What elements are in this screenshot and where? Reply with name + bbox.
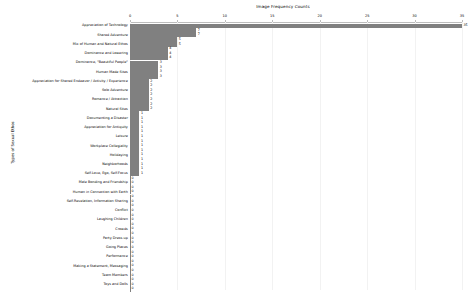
y-tick-label: Leisure: [116, 134, 128, 138]
x-tick-label: 5: [176, 14, 178, 18]
y-tick-label: Natural Sites: [106, 107, 128, 111]
y-tick-label: Documenting a Disaster: [87, 116, 128, 120]
y-tick-label: Appreciation for Antiquity: [84, 125, 128, 129]
bar-row[interactable]: 0: [130, 285, 462, 290]
chart-title: Image Frequency Counts: [183, 4, 383, 9]
x-tick-label: 25: [365, 14, 369, 18]
y-tick-label: Holidaying: [110, 153, 128, 157]
bar-value-label: 35: [463, 23, 467, 27]
y-tick-label: Going Places: [106, 245, 128, 249]
y-tick-label: Crowds: [115, 227, 127, 231]
x-tick-mark: [462, 20, 463, 23]
y-tick-label: Self-Revelation, Information Sharing: [67, 199, 128, 203]
y-tick-label: Human Made Sites: [96, 70, 128, 74]
bar-chart: Image Frequency Counts Types of Sexual E…: [0, 0, 470, 306]
y-tick-label: Making a Statement, Messaging: [73, 264, 127, 268]
y-tick-label: Dominance and Lowering: [85, 51, 128, 55]
y-tick-label: Dominance, "Beautiful People": [76, 60, 128, 64]
y-tick-label: Team Members: [102, 273, 128, 277]
y-tick-label: Romance / Attraction: [92, 97, 128, 101]
y-tick-label: Appreciation for Shared Endeavor / Activ…: [32, 79, 128, 83]
y-tick-label: Toys and Dolls: [104, 282, 128, 286]
y-tick-label: Self-Love, Ego, Self-Focus: [85, 171, 128, 175]
y-tick-label: Appreciation of Technology: [82, 23, 128, 27]
y-tick-label: Human in Connection with Earth: [73, 190, 128, 194]
y-tick-label: Shared Adventure: [97, 33, 128, 37]
x-tick-label: 0: [129, 14, 131, 18]
plot-area: 0510152025303535Appreciation of Technolo…: [130, 22, 462, 290]
y-tick-label: Conflict: [115, 208, 128, 212]
x-tick-label: 35: [460, 14, 464, 18]
bar-value-label: 0: [131, 286, 133, 290]
x-tick-label: 15: [270, 14, 274, 18]
y-tick-label: Solo Adventure: [102, 88, 128, 92]
y-tick-label: Male Bonding and Friendship: [79, 180, 128, 184]
x-tick-label: 10: [223, 14, 227, 18]
x-tick-label: 30: [412, 14, 416, 18]
y-tick-label: Mix of Human and Natural Ethos: [73, 42, 128, 46]
x-gridline: [462, 22, 463, 290]
y-tick-label: Laughing Children: [97, 217, 128, 221]
y-tick-label: Party Dress-up: [103, 236, 128, 240]
y-tick-label: Workplace Collegiality: [90, 144, 128, 148]
y-tick-label: Neighborhoods: [102, 162, 128, 166]
x-tick-label: 20: [317, 14, 321, 18]
y-tick-label: Performance: [106, 254, 128, 258]
y-axis-label: Types of Sexual Ethos: [10, 113, 15, 173]
